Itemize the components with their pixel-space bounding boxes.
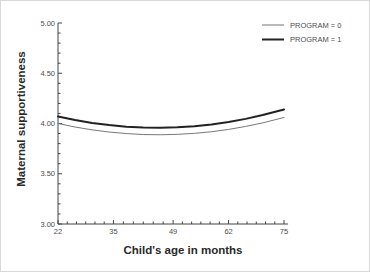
y-tick-label: 4.50 — [40, 69, 55, 78]
y-tick-label: 4.00 — [40, 119, 55, 128]
series-line-0 — [58, 117, 284, 134]
legend-label-program-0: PROGRAM = 0 — [290, 21, 341, 30]
x-tick-label: 35 — [109, 227, 117, 236]
legend: PROGRAM = 0 PROGRAM = 1 — [262, 21, 341, 45]
chart-svg: 3.003.504.004.505.002235496275 Child's a… — [1, 1, 370, 272]
x-tick-label: 75 — [280, 227, 288, 236]
y-tick-label: 5.00 — [40, 19, 55, 28]
x-tick-label: 49 — [169, 227, 177, 236]
y-tick-label: 3.00 — [40, 220, 55, 229]
series-group — [58, 109, 284, 134]
chart-figure: 3.003.504.004.505.002235496275 Child's a… — [0, 0, 370, 272]
x-tick-label: 22 — [54, 227, 62, 236]
y-axis-title: Maternal supportiveness — [15, 51, 27, 186]
x-tick-label: 62 — [224, 227, 232, 236]
legend-label-program-1: PROGRAM = 1 — [290, 35, 341, 44]
y-tick-label: 3.50 — [40, 169, 55, 178]
x-axis-title: Child's age in months — [123, 244, 242, 256]
